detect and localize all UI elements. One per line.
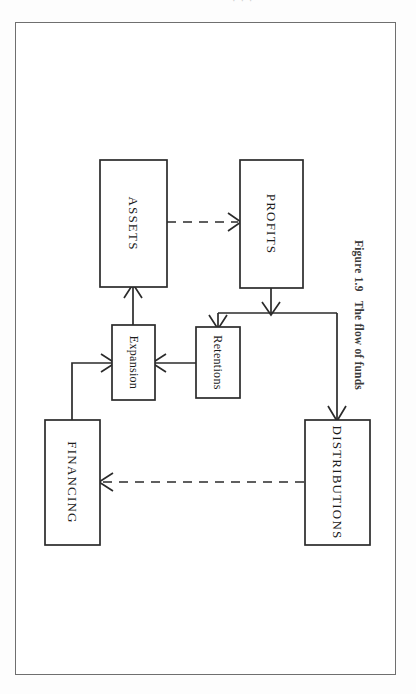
figure-caption-text: The flow of funds bbox=[353, 301, 365, 390]
edge-retentions-to-expansion bbox=[152, 354, 196, 372]
edge-financing-to-expansion bbox=[72, 354, 115, 420]
node-retentions[interactable]: Retentions bbox=[196, 327, 240, 398]
node-expansion[interactable]: Expansion bbox=[112, 325, 155, 400]
figure-caption-number: Figure 1.9 bbox=[353, 240, 365, 292]
edge-assets-to-profits bbox=[167, 213, 241, 231]
node-profits-label: PROFITS bbox=[264, 194, 279, 254]
node-assets-label: ASSETS bbox=[126, 196, 141, 250]
scanned-page: · · · bbox=[0, 0, 416, 694]
node-expansion-label: Expansion bbox=[127, 336, 141, 389]
edge-bus-to-distributions bbox=[328, 313, 346, 421]
edge-expansion-to-assets bbox=[124, 284, 142, 325]
figure-caption: Figure 1.9 The flow of funds bbox=[348, 240, 370, 470]
edge-profits-down bbox=[262, 288, 280, 315]
node-financing[interactable]: FINANCING bbox=[45, 420, 100, 545]
node-profits[interactable]: PROFITS bbox=[240, 160, 303, 288]
node-financing-label: FINANCING bbox=[65, 441, 80, 523]
node-retentions-label: Retentions bbox=[211, 335, 225, 389]
node-distributions-label: DISTRIBUTIONS bbox=[330, 426, 345, 540]
edge-distributions-to-financing bbox=[99, 473, 304, 491]
node-assets[interactable]: ASSETS bbox=[100, 160, 167, 287]
